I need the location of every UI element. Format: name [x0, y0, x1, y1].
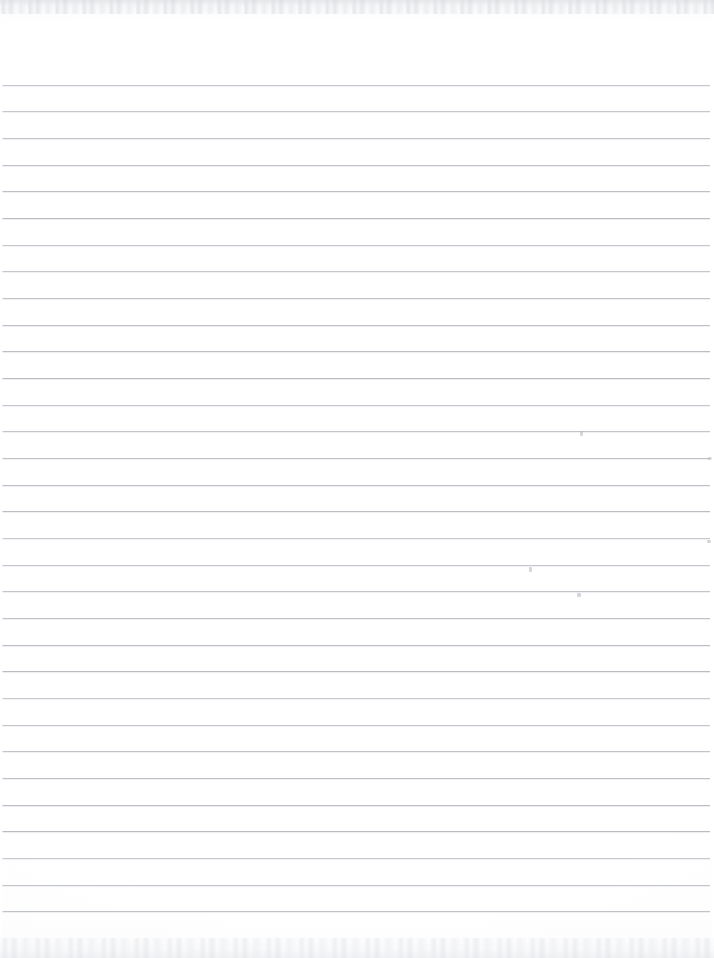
rule-line: [2, 138, 710, 139]
rule-line: [2, 778, 710, 779]
scanned-page: [0, 0, 714, 958]
rule-line: [2, 885, 710, 886]
rule-line: [2, 671, 710, 672]
rule-line: [2, 245, 710, 246]
rule-line: [2, 85, 710, 86]
rule-line: [2, 351, 710, 352]
rule-line: [2, 485, 710, 486]
rule-line: [2, 831, 710, 832]
speck-right-edge: [707, 540, 711, 543]
rule-line: [2, 325, 710, 326]
rule-line: [2, 458, 710, 459]
rule-line: [2, 698, 710, 699]
rule-line: [2, 431, 710, 432]
rule-line: [2, 805, 710, 806]
rule-line: [2, 405, 710, 406]
rule-line: [2, 511, 710, 512]
rule-line: [2, 191, 710, 192]
rule-line: [2, 725, 710, 726]
rule-line: [2, 565, 710, 566]
rule-line: [2, 538, 710, 539]
speck-lower-center: [577, 593, 581, 597]
rule-line: [2, 591, 710, 592]
rule-line: [2, 858, 710, 859]
rule-line: [2, 645, 710, 646]
rule-line: [2, 165, 710, 166]
ruled-lines-container: [0, 0, 714, 958]
rule-line: [2, 911, 710, 912]
rule-line: [2, 271, 710, 272]
rule-line: [2, 111, 710, 112]
rule-line: [2, 218, 710, 219]
speck-center-right: [529, 567, 532, 572]
rule-line: [2, 298, 710, 299]
rule-line: [2, 751, 710, 752]
rule-line: [2, 618, 710, 619]
rule-line: [2, 378, 710, 379]
